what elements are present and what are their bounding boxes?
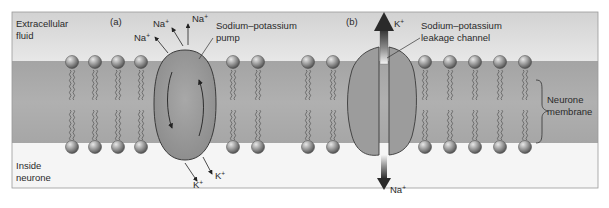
phosphate-head-icon [252,56,265,69]
phosphate-head-icon [66,141,79,154]
membrane-label-line1: Neurone [547,94,592,106]
pump-label-line2: pump [216,32,297,44]
extracellular-region [12,12,598,62]
phosphate-head-icon [252,141,265,154]
phosphate-head-icon [494,56,507,69]
neurone-membrane-label: Neurone membrane [547,94,592,118]
phosphate-head-icon [444,141,457,154]
phosphate-head-icon [89,56,102,69]
pump-label-line1: Sodium–potassium [216,20,297,32]
phosphate-head-icon [89,141,102,154]
diagram-canvas: Extracellular fluid Inside neurone Neuro… [0,0,609,208]
phosphate-head-icon [327,141,340,154]
membrane-diagram [0,0,609,208]
na-ion-label-3: Na+ [192,11,208,25]
panel-b-tag: (b) [346,16,358,28]
membrane-band [12,61,598,143]
phosphate-head-icon [419,56,432,69]
phosphate-head-icon [469,141,482,154]
phosphate-head-icon [302,141,315,154]
inside-label-line2: neurone [16,172,51,184]
phosphate-head-icon [419,141,432,154]
phosphate-head-icon [227,56,240,69]
phosphate-head-icon [227,141,240,154]
leakage-channel-label: Sodium–potassium leakage channel [421,20,502,44]
panel-a-tag: (a) [110,16,122,28]
k-ion-label-2: K+ [215,168,225,182]
inside-neurone-label: Inside neurone [16,160,51,184]
inside-label-line1: Inside [16,160,51,172]
phosphate-head-icon [135,141,148,154]
k-out-ion-label: K+ [394,16,404,30]
na-in-ion-label: Na+ [390,182,406,196]
pump-label: Sodium–potassium pump [216,20,297,44]
na-ion-label-1: Na+ [134,30,150,44]
phosphate-head-icon [519,141,532,154]
phosphate-head-icon [112,141,125,154]
na-in-arrow-shaft [381,155,387,179]
phosphate-head-icon [519,56,532,69]
k-out-arrow-shaft [380,28,388,64]
phosphate-head-icon [469,56,482,69]
extracellular-label: Extracellular fluid [16,18,68,42]
phosphate-head-icon [302,56,315,69]
channel-label-line1: Sodium–potassium [421,20,502,32]
phosphate-head-icon [135,56,148,69]
phosphate-head-icon [494,141,507,154]
na-ion-label-2: Na+ [153,16,169,30]
phosphate-head-icon [112,56,125,69]
membrane-label-line2: membrane [547,106,592,118]
extracellular-label-line2: fluid [16,30,68,42]
channel-label-line2: leakage channel [421,32,502,44]
extracellular-label-line1: Extracellular [16,18,68,30]
phosphate-head-icon [444,56,457,69]
phosphate-head-icon [327,56,340,69]
phosphate-head-icon [66,56,79,69]
k-ion-label-1: K+ [193,177,203,191]
